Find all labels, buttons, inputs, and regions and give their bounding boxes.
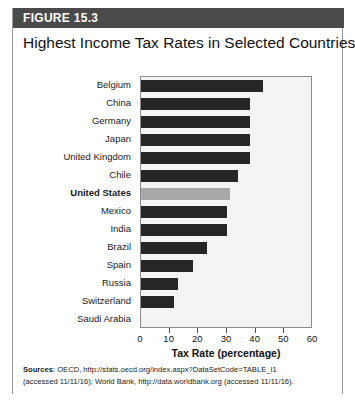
bar-row <box>141 131 311 149</box>
figure-title: Highest Income Tax Rates in Selected Cou… <box>23 34 338 52</box>
category-label: United States <box>13 184 137 202</box>
category-label: China <box>13 94 137 112</box>
bar-row <box>141 149 311 167</box>
category-axis-labels: BelgiumChinaGermanyJapanUnited KingdomCh… <box>13 76 137 328</box>
bar-row <box>141 167 311 185</box>
bar-row <box>141 185 311 203</box>
axis-tick-label: 20 <box>192 333 203 344</box>
category-label: India <box>13 220 137 238</box>
bar <box>141 206 227 218</box>
bar <box>141 296 174 308</box>
bar <box>141 278 178 290</box>
bar-row <box>141 113 311 131</box>
bar <box>141 80 263 92</box>
figure-header-band: FIGURE 15.3 <box>13 8 344 28</box>
axis-tick-label: 40 <box>249 333 260 344</box>
category-label: United Kingdom <box>13 148 137 166</box>
bar-row <box>141 77 311 95</box>
category-label: Belgium <box>13 76 137 94</box>
category-label: Japan <box>13 130 137 148</box>
source-lead: Sources <box>23 365 53 374</box>
bar-row <box>141 275 311 293</box>
category-label: Saudi Arabia <box>13 310 137 328</box>
bar <box>141 224 227 236</box>
source-line-1: : OECD, http://stats.oecd.org/index.aspx… <box>53 365 277 374</box>
x-axis-tick-labels: 0102030405060 <box>140 333 312 347</box>
plot-area <box>140 76 312 328</box>
source-line-2: (accessed 11/11/16); World Bank, http://… <box>23 377 294 386</box>
category-label: Chile <box>13 166 137 184</box>
x-axis-title: Tax Rate (percentage) <box>140 347 312 359</box>
bar-row <box>141 239 311 257</box>
bar-row <box>141 293 311 311</box>
bar-row <box>141 203 311 221</box>
figure-card: FIGURE 15.3 Highest Income Tax Rates in … <box>12 8 343 394</box>
axis-tick-label: 10 <box>163 333 174 344</box>
bar <box>141 152 250 164</box>
chart: BelgiumChinaGermanyJapanUnited KingdomCh… <box>13 66 344 356</box>
bar <box>141 116 250 128</box>
category-label: Spain <box>13 256 137 274</box>
source-note: Sources: OECD, http://stats.oecd.org/ind… <box>23 364 339 387</box>
bar <box>141 260 193 272</box>
category-label: Russia <box>13 274 137 292</box>
axis-tick-label: 60 <box>307 333 318 344</box>
bar-row <box>141 311 311 329</box>
figure-number-label: FIGURE 15.3 <box>23 11 98 25</box>
axis-tick-label: 0 <box>137 333 142 344</box>
bar <box>141 188 230 200</box>
category-label: Brazil <box>13 238 137 256</box>
bar-row <box>141 221 311 239</box>
axis-tick-label: 50 <box>278 333 289 344</box>
bar <box>141 170 238 182</box>
bar <box>141 134 250 146</box>
category-label: Germany <box>13 112 137 130</box>
bar-row <box>141 257 311 275</box>
axis-tick-label: 30 <box>221 333 232 344</box>
bar-row <box>141 95 311 113</box>
bar <box>141 98 250 110</box>
category-label: Switzerland <box>13 292 137 310</box>
category-label: Mexico <box>13 202 137 220</box>
bar <box>141 242 207 254</box>
